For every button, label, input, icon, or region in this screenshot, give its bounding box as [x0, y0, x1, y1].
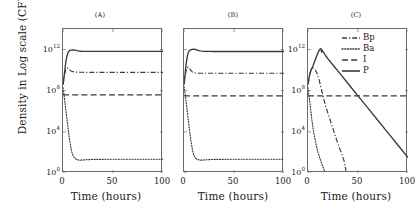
series-ba — [63, 88, 163, 161]
x-tick-0: 0 — [293, 176, 321, 186]
panel-a-title: (A) — [36, 11, 164, 19]
legend-item-bp[interactable]: Bp — [341, 32, 375, 43]
x-tick-50: 50 — [219, 176, 247, 186]
panel-b: (B) Time (hours) 050100 — [163, 0, 291, 213]
panel-a-x-label: Time (hours) — [42, 190, 170, 202]
y-tick-10e12: 1012 — [279, 43, 305, 54]
y-tick-10e8: 108 — [34, 84, 60, 95]
legend: BpBaIP — [341, 32, 375, 76]
legend-key-dashed — [341, 56, 361, 64]
series-bp — [63, 68, 163, 84]
panel-b-plot-area — [183, 28, 283, 172]
series-ba — [184, 87, 284, 161]
x-tick-50: 50 — [343, 176, 371, 186]
legend-label: P — [363, 65, 369, 76]
series-p — [184, 49, 284, 84]
panel-c-title: (C) — [306, 11, 406, 19]
legend-key-dotted — [341, 45, 361, 53]
series-ba — [308, 88, 325, 172]
series-bp — [184, 67, 284, 84]
legend-item-p[interactable]: P — [341, 65, 375, 76]
y-tick-10e4: 104 — [279, 125, 305, 136]
y-tick-10e8: 108 — [279, 84, 305, 95]
x-tick-0: 0 — [48, 176, 76, 186]
panel-c-x-label: Time (hours) — [286, 190, 419, 202]
y-tick-10e12: 1012 — [34, 43, 60, 54]
series-p — [63, 50, 163, 85]
x-tick-50: 50 — [98, 176, 126, 186]
legend-item-ba[interactable]: Ba — [341, 43, 375, 54]
x-tick-0: 0 — [169, 176, 197, 186]
legend-label: Bp — [363, 32, 375, 43]
series-bp — [308, 68, 346, 171]
legend-label: I — [363, 54, 366, 65]
figure-root: Density in Log scale (CFU/g) (A) Time (h… — [0, 0, 419, 213]
legend-key-solid — [341, 67, 361, 75]
legend-key-dashdot — [341, 34, 361, 42]
panel-b-x-label: Time (hours) — [163, 190, 303, 202]
panel-a-plot-area — [62, 28, 162, 172]
panel-b-title: (B) — [183, 11, 283, 19]
panel-c: (C) Time (hours) BpBaIP 1001041081012050… — [286, 0, 419, 213]
panel-a-curves — [63, 29, 163, 173]
legend-label: Ba — [363, 43, 374, 54]
y-tick-10e4: 104 — [34, 125, 60, 136]
legend-item-i[interactable]: I — [341, 54, 375, 65]
y-axis-label: Density in Log scale (CFU/g) — [16, 0, 28, 136]
panel-a: (A) Time (hours) 1001041081012050100 — [36, 0, 166, 213]
x-tick-100: 100 — [393, 176, 419, 186]
panel-b-curves — [184, 29, 284, 173]
